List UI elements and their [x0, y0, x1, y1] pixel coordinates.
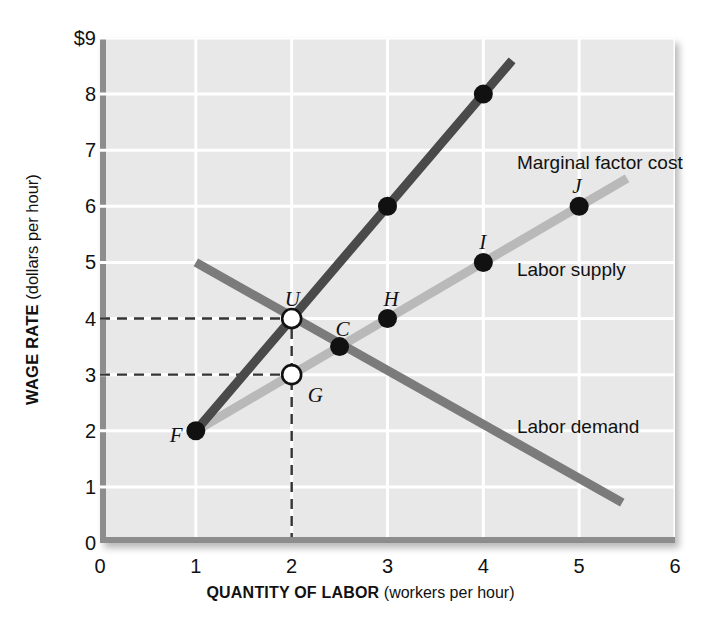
data-point-h[interactable] [378, 309, 397, 328]
x-tick-6: 6 [655, 556, 695, 576]
wage-rate-quantity-of-labor-chart: WAGE RATE (dollars per hour) QUANTITY OF… [0, 0, 721, 627]
y-tick-8: 8 [36, 84, 96, 104]
y-axis-title-rest: (dollars per hour) [23, 174, 41, 304]
data-point-u[interactable] [282, 309, 301, 328]
point-label-u: U [285, 289, 300, 310]
y-tick-6: 6 [36, 196, 96, 216]
series-line-labor-demand [196, 262, 622, 502]
x-tick-3: 3 [368, 556, 408, 576]
data-point-unlabeled[interactable] [378, 197, 397, 216]
series-label-marginal-factor-cost: Marginal factor cost [517, 153, 683, 172]
x-axis-title: QUANTITY OF LABOR (workers per hour) [0, 584, 721, 602]
x-tick-2: 2 [272, 556, 312, 576]
y-tick-7: 7 [36, 140, 96, 160]
y-tick-5: 5 [36, 252, 96, 272]
x-tick-0: 0 [80, 556, 120, 576]
x-tick-5: 5 [559, 556, 599, 576]
point-label-f: F [170, 425, 183, 446]
y-tick-2: 2 [36, 421, 96, 441]
y-tick-0: 0 [36, 533, 96, 553]
data-point-i[interactable] [474, 253, 493, 272]
point-label-g: G [308, 385, 323, 406]
series-label-labor-demand: Labor demand [517, 417, 640, 436]
x-axis-title-bold: QUANTITY OF LABOR [206, 584, 379, 601]
y-tick-4: 4 [36, 309, 96, 329]
x-tick-4: 4 [463, 556, 503, 576]
y-tick-1: 1 [36, 477, 96, 497]
series-label-labor-supply: Labor supply [517, 260, 626, 279]
point-label-j: J [572, 176, 581, 197]
data-point-g[interactable] [282, 365, 301, 384]
point-label-c: C [336, 319, 350, 340]
data-point-f[interactable] [186, 421, 205, 440]
series-line-labor-supply [196, 178, 627, 431]
data-point-j[interactable] [570, 197, 589, 216]
x-tick-1: 1 [176, 556, 216, 576]
point-label-h: H [384, 289, 399, 310]
y-tick-3: 3 [36, 365, 96, 385]
data-point-unlabeled[interactable] [474, 85, 493, 104]
point-label-i: I [479, 232, 486, 253]
y-tick-9: $9 [36, 28, 96, 48]
x-axis-title-rest: (workers per hour) [379, 584, 514, 601]
